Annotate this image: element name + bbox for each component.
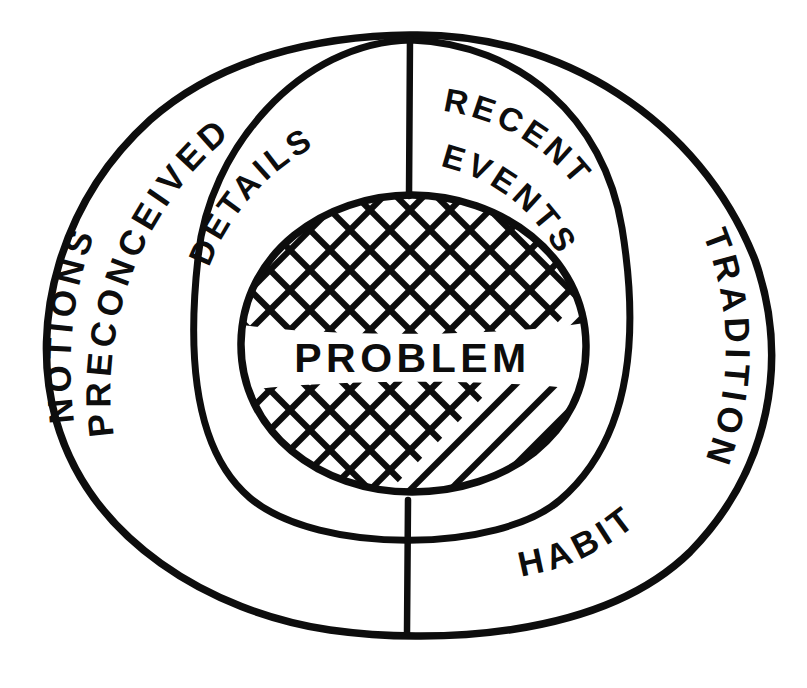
concentric-rings-diagram: DETAILS RECENT EVENTS PRECONCEIVED NOTIO… — [0, 0, 807, 688]
label-habit-text: HABIT — [514, 497, 643, 584]
label-habit: HABIT — [514, 497, 643, 584]
label-problem-text: PROBLEM — [294, 335, 531, 381]
divider-top — [409, 38, 410, 196]
divider-bottom — [407, 500, 408, 632]
label-tradition: TRADITION — [696, 223, 758, 474]
label-problem: PROBLEM — [294, 335, 531, 381]
label-preconceived: PRECONCEIVED — [78, 109, 238, 439]
label-preconceived-text: PRECONCEIVED — [78, 109, 238, 439]
diagram-canvas: DETAILS RECENT EVENTS PRECONCEIVED NOTIO… — [0, 0, 807, 688]
label-tradition-text: TRADITION — [696, 223, 758, 474]
